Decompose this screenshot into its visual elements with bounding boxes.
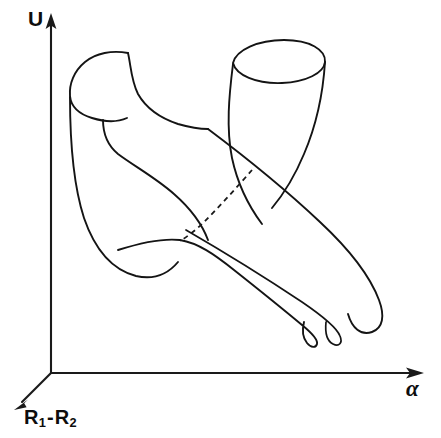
depth-axis-label: R1-R2 (24, 407, 77, 427)
funnel-rim-ellipse (233, 40, 325, 83)
pleat-upper-fold (208, 129, 382, 333)
figure-canvas (0, 0, 441, 438)
depth-label-sub1: 1 (39, 415, 46, 430)
hidden-cusp-edge (180, 170, 252, 241)
depth-label-r2: R (55, 406, 70, 428)
left-lobe-top-rim (70, 52, 128, 121)
funnel-left-wall (229, 64, 262, 224)
left-lobe-inner-cusp-fold (128, 53, 208, 129)
surface-group (70, 40, 382, 347)
u-axis-label: U (28, 8, 44, 29)
depth-label-r1: R (24, 406, 39, 428)
depth-axis-line (22, 373, 51, 402)
left-lobe-outer-silhouette (70, 97, 178, 277)
left-lobe-inner-front-edge (103, 120, 208, 240)
catastrophe-figure: U α R1-R2 (0, 0, 441, 438)
depth-label-sub2: 2 (70, 415, 77, 430)
pleat-middle-fold (186, 230, 341, 345)
alpha-axis-label: α (406, 377, 419, 400)
depth-label-minus: - (46, 406, 55, 428)
